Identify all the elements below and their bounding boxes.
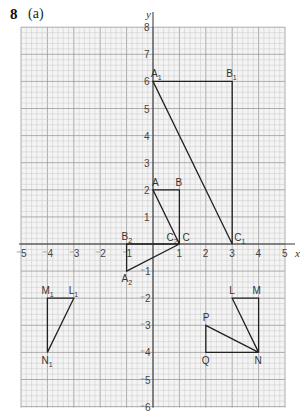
x-tick-label: ⁻2 bbox=[95, 248, 106, 259]
vertex-label-c: C bbox=[182, 232, 189, 243]
y-tick-label: 2 bbox=[144, 185, 150, 196]
x-tick-label: ⁻5 bbox=[16, 248, 27, 259]
y-tick-label: 8 bbox=[144, 22, 150, 33]
y-tick-label: ⁻6 bbox=[140, 402, 151, 413]
x-tick-label: 1 bbox=[176, 248, 182, 259]
y-tick-label: ⁻5 bbox=[140, 375, 151, 386]
y-tick-label: 3 bbox=[144, 158, 150, 169]
y-tick-label: 4 bbox=[144, 131, 150, 142]
y-tick-label: ⁻2 bbox=[140, 293, 151, 304]
vertex-label-a: A bbox=[152, 177, 159, 188]
vertex-label-p: P bbox=[203, 312, 210, 323]
x-tick-label: 3 bbox=[229, 248, 235, 259]
y-tick-label: 7 bbox=[144, 49, 150, 60]
x-tick-label: 4 bbox=[256, 248, 262, 259]
y-tick-label: ⁻3 bbox=[140, 320, 151, 331]
vertex-label-m: M bbox=[253, 285, 261, 296]
x-tick-label: ⁻3 bbox=[69, 248, 80, 259]
y-tick-label: ⁻4 bbox=[140, 347, 151, 358]
y-tick-label: ⁻1 bbox=[140, 266, 151, 277]
y-tick-label: 1 bbox=[144, 212, 150, 223]
x-tick-label: 2 bbox=[203, 248, 209, 259]
y-tick-label: 5 bbox=[144, 104, 150, 115]
vertex-label-b: B bbox=[175, 177, 182, 188]
coordinate-grid-chart: xy⁻5⁻4⁻3⁻2⁻11234587654321⁻1⁻2⁻3⁻4⁻5⁻6ABC… bbox=[0, 0, 303, 418]
y-axis-label: y bbox=[145, 8, 151, 20]
y-tick-label: 6 bbox=[144, 76, 150, 87]
x-axis-label: x bbox=[294, 247, 300, 259]
x-tick-label: ⁻4 bbox=[42, 248, 53, 259]
vertex-label-l: L bbox=[229, 285, 235, 296]
x-tick-label: 5 bbox=[282, 248, 288, 259]
vertex-label-q: Q bbox=[202, 355, 210, 366]
vertex-label-n: N bbox=[255, 355, 262, 366]
